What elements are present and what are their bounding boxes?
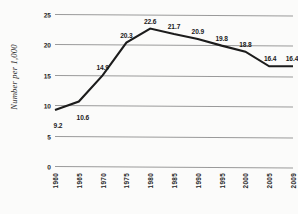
x-tick-label-1985: 1985	[171, 173, 178, 188]
y-tick-label-20: 20	[44, 42, 51, 49]
point-label-2005: 16.4	[264, 55, 276, 62]
series-polyline	[55, 29, 293, 110]
plot-area: 0510152025 9.210.614.920.322.621.720.919…	[55, 14, 293, 166]
y-tick-label-15: 15	[44, 72, 51, 79]
x-tick-label-2009: 2009	[290, 173, 297, 188]
y-axis-title: Number per 1,000	[9, 27, 19, 127]
point-label-1985: 21.7	[168, 23, 180, 30]
x-tick-label-1990: 1990	[194, 173, 201, 188]
point-label-1975: 20.3	[120, 32, 132, 39]
x-tick-label-1970: 1970	[99, 173, 106, 188]
x-tick-label-1975: 1975	[123, 173, 130, 188]
x-tick-label-1995: 1995	[218, 173, 225, 188]
point-label-1960: 9.2	[54, 122, 63, 129]
x-tick-label-2000: 2000	[242, 173, 249, 188]
data-series-line	[55, 14, 293, 166]
x-tick-label-1965: 1965	[75, 173, 82, 188]
x-tick-label-1980: 1980	[147, 173, 154, 188]
y-tick-label-25: 25	[44, 11, 51, 18]
point-label-2009: 16.4	[286, 55, 298, 62]
point-label-1990: 20.9	[192, 28, 204, 35]
y-tick-label-5: 5	[47, 133, 51, 140]
x-tick-label-2005: 2005	[266, 173, 273, 188]
point-label-1970: 14.9	[96, 64, 108, 71]
y-tick-label-10: 10	[44, 103, 51, 110]
point-label-2000: 18.8	[239, 41, 251, 48]
y-tick-label-0: 0	[47, 163, 51, 170]
x-tick-label-1960: 1960	[52, 173, 59, 188]
point-label-1995: 19.8	[215, 35, 227, 42]
gridline-0: 0	[55, 166, 293, 168]
chart-figure: Number per 1,000 0510152025 9.210.614.92…	[0, 0, 298, 214]
point-label-1980: 22.6	[144, 18, 156, 25]
point-label-1965: 10.6	[77, 114, 89, 121]
